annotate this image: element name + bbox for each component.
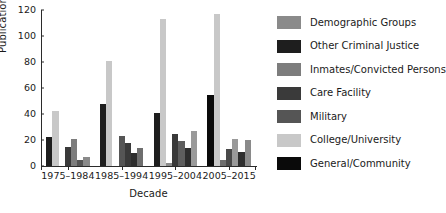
bar-group <box>149 10 203 166</box>
y-axis-tick-label: 100 <box>18 31 41 41</box>
x-axis-tick-label: 1975–1984 <box>41 171 94 181</box>
legend-swatch <box>277 63 301 76</box>
bar[interactable] <box>52 111 58 166</box>
x-axis-tick-label: 1995–2004 <box>149 171 202 181</box>
y-axis-tick-label: 80 <box>24 57 41 67</box>
bar-group <box>41 10 95 166</box>
legend-label: Inmates/Convicted Persons <box>310 65 446 75</box>
bar[interactable] <box>137 148 143 166</box>
bar[interactable] <box>83 157 89 166</box>
y-axis-tick-label: 40 <box>24 109 41 119</box>
legend-label: Demographic Groups <box>310 18 416 28</box>
bar[interactable] <box>245 140 251 166</box>
legend-item[interactable]: Other Criminal Justice <box>277 35 435 59</box>
bar[interactable] <box>214 14 220 166</box>
x-axis-title: Decade <box>41 188 256 199</box>
bar-group <box>95 10 149 166</box>
y-axis-tick-label: 120 <box>18 5 41 15</box>
bar[interactable] <box>191 131 197 166</box>
bar-groups <box>41 10 256 166</box>
plot-area: 020406080100120 <box>41 10 256 166</box>
y-axis-tick-label: 60 <box>24 83 41 93</box>
legend-item[interactable]: Demographic Groups <box>277 11 435 35</box>
y-axis-tick-label: 20 <box>24 135 41 145</box>
bar-group <box>202 10 256 166</box>
x-axis-tick: 1985–1994 <box>95 167 149 181</box>
bar[interactable] <box>160 19 166 166</box>
chart-legend: Demographic GroupsOther Criminal Justice… <box>277 11 435 176</box>
legend-item[interactable]: Care Facility <box>277 82 435 106</box>
bar[interactable] <box>106 61 112 166</box>
x-axis-edge-tick <box>41 167 42 170</box>
x-axis-edge-tick <box>255 167 256 170</box>
x-axis-ticks: 1975–19841985–19941995–20042005–2015 <box>41 167 256 181</box>
legend-item[interactable]: General/Community <box>277 152 435 176</box>
legend-label: Military <box>310 112 347 122</box>
x-axis-tick-label: 1985–1994 <box>95 171 148 181</box>
x-axis-tick: 2005–2015 <box>202 167 256 181</box>
legend-label: College/University <box>310 135 401 145</box>
legend-swatch <box>277 40 301 53</box>
legend-swatch <box>277 110 301 123</box>
x-axis-tick: 1975–1984 <box>41 167 95 181</box>
y-axis-title: Publications <box>0 0 8 53</box>
x-axis-tick: 1995–2004 <box>149 167 203 181</box>
legend-item[interactable]: College/University <box>277 129 435 153</box>
legend-item[interactable]: Military <box>277 105 435 129</box>
legend-label: Care Facility <box>310 88 371 98</box>
y-axis-tick-label: 0 <box>30 161 41 171</box>
legend-item[interactable]: Inmates/Convicted Persons <box>277 58 435 82</box>
x-axis-tick-label: 2005–2015 <box>203 171 256 181</box>
legend-swatch <box>277 16 301 29</box>
legend-label: Other Criminal Justice <box>310 41 419 51</box>
legend-label: General/Community <box>310 159 411 169</box>
legend-swatch <box>277 134 301 147</box>
legend-swatch <box>277 87 301 100</box>
legend-swatch <box>277 157 301 170</box>
